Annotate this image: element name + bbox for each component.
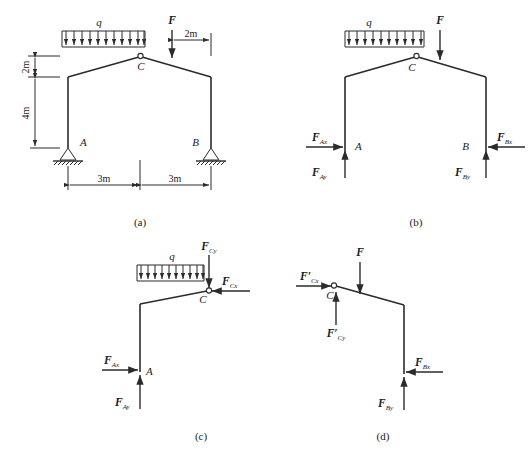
left-rafter	[345, 57, 415, 77]
panel-d-reaction-Bx: FBx	[406, 356, 443, 372]
panel-c-distributed-load: q	[137, 250, 204, 281]
label-B: B	[192, 136, 199, 148]
label-F-prime-Cy: F′Cy	[326, 327, 347, 342]
label-F-Ay: FAy	[114, 396, 131, 411]
panel-b: q F C FAx FAy A	[306, 14, 525, 229]
left-rafter	[68, 57, 139, 77]
label-F-Cy: FCy	[200, 240, 217, 255]
label-C: C	[408, 61, 416, 73]
dim-2m-offset: 2m	[185, 28, 198, 39]
panel-a-support-B: B	[192, 136, 226, 165]
label-A: A	[145, 365, 153, 377]
panel-a-vertical-dims: 2m 4m	[20, 56, 60, 148]
label-F-Ax: FAx	[103, 354, 120, 369]
label-F-Ay: FAy	[311, 166, 328, 181]
dim-4m: 4m	[20, 106, 31, 119]
hinge-C	[138, 53, 143, 58]
label-C: C	[326, 289, 334, 301]
panel-a: q F 2m C	[20, 14, 226, 229]
label-C: C	[199, 293, 207, 305]
label-F-prime-Cx: F′Cx	[299, 270, 320, 285]
panel-a-support-A: A	[53, 136, 87, 165]
load-arrows	[349, 31, 421, 45]
caption-a: (a)	[134, 216, 147, 229]
label-F-Cx: FCx	[221, 275, 238, 290]
label-q: q	[169, 250, 175, 262]
label-C: C	[137, 60, 145, 72]
engineering-diagram-canvas: q F 2m C	[0, 0, 531, 467]
label-F-Bx: FBx	[496, 131, 513, 146]
caption-d: (d)	[377, 430, 390, 443]
panel-d-point-load: F	[355, 246, 364, 294]
panel-a-frame: C	[68, 53, 211, 148]
panel-a-point-load: F	[167, 14, 176, 58]
dim-3m-left: 3m	[98, 173, 111, 184]
figure-root: q F 2m C	[0, 0, 531, 467]
dim-2m: 2m	[20, 60, 31, 73]
left-rafter	[140, 291, 207, 304]
panel-b-reaction-Ay: FAy	[311, 150, 345, 181]
panel-c: q FCy FCx C FAx	[102, 240, 250, 443]
pin-triangle-A	[60, 148, 76, 160]
caption-b: (b)	[410, 216, 423, 229]
hinge-C	[414, 53, 419, 58]
label-F-Ax: FAx	[311, 131, 328, 146]
panel-c-reaction-Ax: FAx	[102, 354, 138, 370]
label-A: A	[79, 136, 87, 148]
label-F: F	[167, 14, 176, 26]
panel-b-point-load: F	[435, 14, 444, 60]
load-arrows	[141, 265, 203, 279]
hinge-C	[331, 283, 336, 288]
panel-b-reaction-Bx: FBx	[488, 131, 525, 147]
right-rafter	[418, 57, 486, 77]
label-F: F	[355, 246, 364, 258]
caption-c: (c)	[195, 430, 208, 443]
panel-b-reaction-By: FBy	[454, 150, 486, 181]
panel-b-distributed-load: q	[345, 16, 424, 47]
panel-b-frame: C	[345, 53, 486, 150]
label-F-By: FBy	[454, 166, 471, 181]
load-arrows	[66, 31, 144, 45]
panel-a-dim-offset-2m: 2m	[174, 28, 211, 56]
panel-a-distributed-load: q	[62, 16, 145, 47]
label-A: A	[354, 140, 362, 152]
panel-c-reaction-Ay: FAy	[114, 375, 140, 411]
label-F-Bx: FBx	[414, 356, 431, 371]
right-rafter	[142, 57, 211, 77]
panel-d: F′Cx F′Cy F C FBx F	[296, 246, 443, 443]
label-B: B	[462, 140, 469, 152]
panel-c-half-frame: C	[140, 288, 212, 372]
panel-b-reaction-Ax: FAx	[306, 131, 343, 147]
panel-c-reaction-Cx: FCx	[212, 275, 250, 291]
label-q: q	[96, 16, 102, 28]
panel-d-reaction-By: FBy	[377, 377, 404, 412]
panel-a-span-dims: 3m 3m	[68, 160, 211, 190]
label-q: q	[366, 16, 372, 28]
panel-d-reaction-Cx: F′Cx	[296, 270, 331, 286]
right-rafter	[336, 286, 404, 305]
panel-d-half-frame: C	[326, 283, 404, 374]
label-F-By: FBy	[377, 397, 394, 412]
hinge-C	[206, 288, 211, 293]
dim-3m-right: 3m	[169, 173, 182, 184]
pin-triangle-B	[203, 148, 219, 160]
load-box	[137, 265, 204, 281]
label-F: F	[435, 14, 444, 26]
